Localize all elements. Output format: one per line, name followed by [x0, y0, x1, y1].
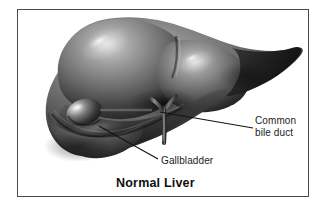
bile-duct-hilum-shadow — [151, 95, 177, 111]
label-gallbladder: Gallbladder — [161, 155, 213, 167]
figure-root: Commonbile duct Gallbladder Normal Liver — [0, 0, 327, 211]
liver-shadow-lower-left — [44, 130, 112, 162]
figure-caption: Normal Liver — [116, 176, 195, 190]
label-common-bile-duct: Commonbile duct — [255, 115, 296, 138]
label-common-bile-duct-line2: bile duct — [255, 127, 293, 138]
label-common-bile-duct-line1: Common — [255, 115, 296, 126]
liver-shadow-upper-right — [218, 62, 270, 90]
liver-organ — [44, 17, 303, 162]
